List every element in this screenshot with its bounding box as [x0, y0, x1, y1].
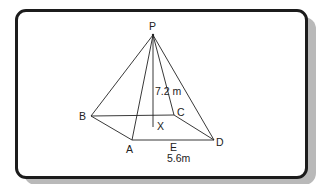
label-B: B — [79, 110, 86, 122]
edge-PA — [132, 35, 153, 140]
edge-BA — [91, 116, 132, 140]
apex-point — [152, 34, 154, 36]
pyramid-diagram: P B C A D X E 7.2 m 5.6m — [0, 0, 329, 184]
height-measurement: 7.2 m — [155, 85, 182, 97]
edge-PB — [91, 35, 153, 116]
label-X: X — [157, 120, 164, 132]
label-P: P — [149, 20, 156, 32]
edge-BC — [91, 115, 174, 116]
base-measurement: 5.6m — [167, 152, 191, 164]
edge-CD — [174, 115, 214, 140]
label-A: A — [126, 143, 133, 155]
label-C: C — [177, 106, 185, 118]
edge-PC — [153, 35, 174, 115]
label-D: D — [216, 136, 224, 148]
